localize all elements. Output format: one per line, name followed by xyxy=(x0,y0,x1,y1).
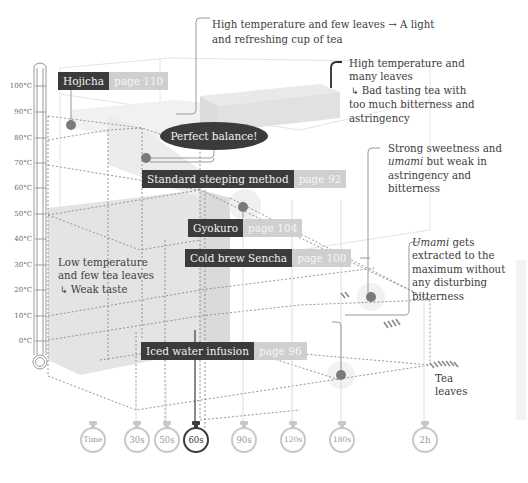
temp-tick-0: 0°C xyxy=(0,337,32,345)
arrow-icon: ↳ xyxy=(60,285,68,295)
high-many-leader xyxy=(331,62,342,88)
tag-standard-steeping[interactable]: Standard steeping method page 92 xyxy=(142,170,346,188)
temp-tick-100: 100°C xyxy=(0,82,32,90)
stopwatch-time-label: Time xyxy=(80,420,106,454)
tag-standard-name: Standard steeping method xyxy=(142,170,294,188)
leaf-mark-large xyxy=(430,361,458,368)
thermometer-icon xyxy=(33,63,47,369)
temp-tick-10: 10°C xyxy=(0,312,32,320)
stopwatch-icon xyxy=(240,421,248,425)
tag-cold-brew-sencha[interactable]: Cold brew Sencha page 100 xyxy=(185,249,351,267)
tag-hojicha[interactable]: Hojicha page 110 xyxy=(58,72,168,90)
tag-cold-brew-page[interactable]: page 100 xyxy=(292,249,351,267)
note-low-temp-few-leaves: Low temperature and few tea leaves ↳ Wea… xyxy=(58,256,154,297)
stopwatch-icon xyxy=(133,421,141,425)
stopwatch-icon xyxy=(338,421,346,425)
tea-leaves-axis-label: Tea leaves xyxy=(435,372,467,399)
gyokuro-dot xyxy=(238,202,248,212)
iced-dot xyxy=(336,370,346,380)
tag-gyokuro-name: Gyokuro xyxy=(188,219,243,237)
note-gyokuro: Strong sweetness and umami but weak in a… xyxy=(388,142,502,196)
perfect-balance-bubble: Perfect balance! xyxy=(160,122,268,150)
tag-iced-water-infusion[interactable]: Iced water infusion page 96 xyxy=(141,342,307,360)
leaf-mark-medium xyxy=(384,319,400,328)
stopwatch-icon xyxy=(89,421,97,425)
tag-hojicha-name: Hojicha xyxy=(58,72,109,90)
stopwatch-icon xyxy=(163,421,171,425)
note-cold-brew: Umami gets extracted to the maximum with… xyxy=(412,236,505,303)
temp-tick-60: 60°C xyxy=(0,184,32,192)
tag-hojicha-page[interactable]: page 110 xyxy=(109,72,168,90)
temp-tick-40: 40°C xyxy=(0,235,32,243)
temp-tick-50: 50°C xyxy=(0,210,32,218)
stopwatch-icon xyxy=(289,421,297,425)
temp-tick-90: 90°C xyxy=(0,108,32,116)
stopwatch-2h[interactable]: 2h xyxy=(412,420,438,454)
stopwatch-60s[interactable]: 60s xyxy=(183,420,209,454)
cold-brew-dot xyxy=(366,292,376,302)
stopwatch-icon xyxy=(192,421,200,425)
hojicha-dot xyxy=(66,120,76,130)
tag-iced-name: Iced water infusion xyxy=(141,342,254,360)
note-high-temp-few-leaves: High temperature and few leaves → A ligh… xyxy=(212,17,434,47)
note-high-temp-many-leaves: High temperature and many leaves ↳ Bad t… xyxy=(349,57,475,125)
tea-steeping-diagram: 100°C 90°C 80°C 70°C 60°C 50°C 40°C 30°C… xyxy=(0,0,528,483)
leaf-mark-small xyxy=(341,292,349,298)
temp-tick-30: 30°C xyxy=(0,261,32,269)
stopwatch-120s[interactable]: 120s xyxy=(280,420,306,454)
stopwatch-30s[interactable]: 30s xyxy=(124,420,150,454)
stopwatch-180s[interactable]: 180s xyxy=(329,420,355,454)
tag-standard-page[interactable]: page 92 xyxy=(294,170,347,188)
tag-cold-brew-name: Cold brew Sencha xyxy=(185,249,292,267)
right-edge-strip xyxy=(516,260,526,420)
temp-tick-70: 70°C xyxy=(0,159,32,167)
arrow-icon: ↳ xyxy=(351,86,359,96)
tag-gyokuro[interactable]: Gyokuro page 104 xyxy=(188,219,302,237)
tag-iced-page[interactable]: page 96 xyxy=(254,342,307,360)
tag-gyokuro-page[interactable]: page 104 xyxy=(243,219,302,237)
stopwatch-50s[interactable]: 50s xyxy=(154,420,180,454)
stopwatch-90s[interactable]: 90s xyxy=(231,420,257,454)
temp-tick-20: 20°C xyxy=(0,286,32,294)
standard-dot xyxy=(141,153,151,163)
temp-tick-80: 80°C xyxy=(0,134,32,142)
stopwatch-icon xyxy=(421,421,429,425)
